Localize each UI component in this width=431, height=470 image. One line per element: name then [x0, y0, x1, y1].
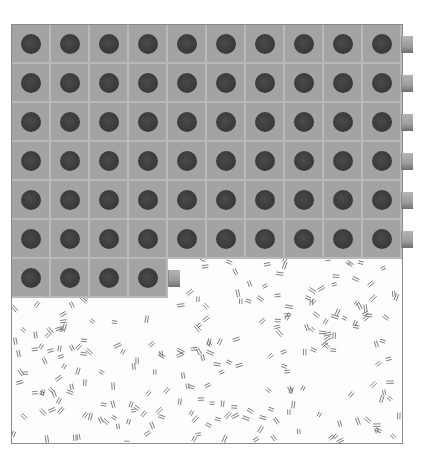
dot-icon	[21, 151, 41, 171]
dot-icon	[99, 151, 119, 171]
tile-cell	[51, 25, 90, 64]
tile-cell	[285, 103, 324, 142]
dot-icon	[177, 151, 197, 171]
tile-cell	[12, 181, 51, 220]
tile-cell	[51, 103, 90, 142]
tile-cell	[363, 142, 402, 181]
dot-icon	[294, 112, 314, 132]
tile-cell	[12, 259, 51, 298]
tile-cell	[246, 181, 285, 220]
dot-icon	[138, 151, 158, 171]
dot-icon	[216, 229, 236, 249]
dot-icon	[138, 190, 158, 210]
dot-icon	[21, 73, 41, 93]
dot-icon	[99, 34, 119, 54]
tile-cell	[51, 181, 90, 220]
dot-icon	[138, 112, 158, 132]
tile-cell	[168, 64, 207, 103]
dot-icon	[60, 229, 80, 249]
dot-icon	[216, 73, 236, 93]
tile-cell	[363, 25, 402, 64]
dot-icon	[177, 229, 197, 249]
dot-icon	[99, 112, 119, 132]
dot-icon	[21, 229, 41, 249]
dot-icon	[372, 73, 392, 93]
tile-cell	[51, 142, 90, 181]
dot-icon	[60, 268, 80, 288]
connector-tab	[401, 231, 413, 248]
tile-cell	[12, 64, 51, 103]
dot-icon	[138, 34, 158, 54]
tile-cell	[207, 25, 246, 64]
dot-icon	[99, 190, 119, 210]
connector-tab	[401, 192, 413, 209]
dot-icon	[216, 112, 236, 132]
tile-cell	[90, 103, 129, 142]
tile-cell	[207, 220, 246, 259]
tile-cell	[324, 64, 363, 103]
tile-cell	[207, 181, 246, 220]
dot-icon	[372, 151, 392, 171]
dot-icon	[177, 112, 197, 132]
dot-icon	[255, 112, 275, 132]
tile-cell	[363, 181, 402, 220]
tile-cell	[90, 142, 129, 181]
tile-cell	[129, 25, 168, 64]
tile-cell	[324, 142, 363, 181]
tile-cell	[207, 103, 246, 142]
dot-icon	[21, 190, 41, 210]
connector-tab	[401, 153, 413, 170]
tile-cell	[168, 142, 207, 181]
dot-icon	[255, 34, 275, 54]
tile-cell	[363, 64, 402, 103]
tile-cell	[51, 259, 90, 298]
dot-icon	[294, 73, 314, 93]
dot-icon	[216, 34, 236, 54]
tile-cell	[129, 64, 168, 103]
dot-icon	[294, 151, 314, 171]
tile-cell	[129, 103, 168, 142]
tile-cell	[363, 220, 402, 259]
connector-tab	[401, 114, 413, 131]
tile-board	[11, 24, 403, 444]
tile-cell	[90, 259, 129, 298]
connector-tab	[401, 75, 413, 92]
tile-cell	[246, 103, 285, 142]
tile-cell	[285, 181, 324, 220]
tile-cell	[129, 220, 168, 259]
dot-icon	[177, 34, 197, 54]
dot-icon	[60, 73, 80, 93]
dot-icon	[333, 151, 353, 171]
dot-icon	[255, 151, 275, 171]
tile-cell	[246, 142, 285, 181]
dot-icon	[138, 229, 158, 249]
tile-cell	[324, 220, 363, 259]
dot-icon	[333, 229, 353, 249]
tile-cell	[285, 142, 324, 181]
tile-cell	[51, 220, 90, 259]
tile-cell	[324, 181, 363, 220]
dot-icon	[372, 112, 392, 132]
dot-icon	[60, 151, 80, 171]
dot-icon	[333, 190, 353, 210]
dot-icon	[255, 190, 275, 210]
dot-icon	[99, 229, 119, 249]
tile-cell	[324, 103, 363, 142]
tile-cell	[168, 103, 207, 142]
tile-cell	[129, 181, 168, 220]
tile-cell	[246, 220, 285, 259]
tile-cell	[129, 259, 168, 298]
dot-icon	[372, 190, 392, 210]
tile-cell	[207, 142, 246, 181]
connector-tab	[168, 270, 180, 287]
dot-icon	[177, 73, 197, 93]
tile-cell	[246, 64, 285, 103]
tile-cell	[207, 64, 246, 103]
dot-icon	[138, 73, 158, 93]
dot-icon	[372, 34, 392, 54]
dot-icon	[294, 229, 314, 249]
tile-cell	[363, 103, 402, 142]
tile-cell	[12, 103, 51, 142]
tile-cell	[12, 25, 51, 64]
dot-icon	[177, 190, 197, 210]
